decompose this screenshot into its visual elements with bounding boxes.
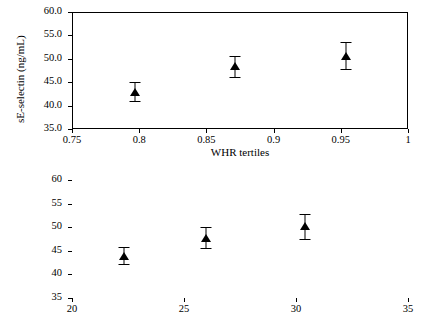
x-tick-mark [341,129,342,133]
data-point-marker [201,234,211,242]
error-bar-cap [118,264,129,265]
error-bar-cap [201,248,212,249]
x-tick-mark [206,129,207,133]
x-tick-label: 20 [52,303,92,314]
y-tick-label: 55 [26,197,62,208]
data-point-marker [119,252,129,260]
data-point-marker [341,52,351,60]
x-tick-label: 0.85 [186,134,226,145]
y-tick-mark [68,12,72,13]
x-tick-label: 0.9 [254,134,294,145]
y-tick-mark [68,204,72,205]
y-tick-label: 55.0 [26,28,62,39]
y-axis-label-whr: sE-selectin (ng/mL) [14,35,26,123]
y-tick-mark [68,82,72,83]
x-tick-mark [296,298,297,302]
y-tick-label: 45.0 [26,75,62,86]
x-tick-label: 1 [388,134,428,145]
y-tick-label: 60 [26,173,62,184]
y-tick-label: 40.0 [26,99,62,110]
y-tick-mark [68,251,72,252]
error-bar-cap [118,247,129,248]
x-tick-label: 30 [276,303,316,314]
x-tick-mark [408,298,409,302]
x-tick-mark [72,129,73,133]
error-bar-cap [341,42,352,43]
error-bar-cap [229,77,240,78]
y-tick-mark [68,274,72,275]
x-tick-label: 35 [388,303,428,314]
x-tick-label: 0.75 [52,134,92,145]
error-bar-cap [341,69,352,70]
x-axis-label-whr: WHR tertiles [72,146,408,158]
y-tick-label: 45 [26,244,62,255]
y-tick-label: 50 [26,220,62,231]
y-tick-mark [68,35,72,36]
plot-area-whr [72,12,408,129]
x-tick-label: 0.95 [321,134,361,145]
y-tick-mark [68,227,72,228]
x-tick-label: 0.8 [119,134,159,145]
y-tick-label: 35.0 [26,122,62,133]
y-tick-mark [68,106,72,107]
data-point-marker [230,62,240,70]
y-tick-mark [68,59,72,60]
x-tick-mark [274,129,275,133]
error-bar-cap [130,82,141,83]
error-bar-cap [201,227,212,228]
y-tick-mark [68,180,72,181]
error-bar-cap [130,101,141,102]
x-tick-mark [184,298,185,302]
figure-container: sE-selectin (ng/mL) WHR tertiles sE-sele… [0,0,432,333]
data-point-marker [130,88,140,96]
x-tick-mark [139,129,140,133]
x-tick-mark [408,129,409,133]
y-tick-label: 50.0 [26,52,62,63]
error-bar-cap [229,56,240,57]
data-point-marker [300,222,310,230]
y-tick-label: 35 [26,291,62,302]
x-tick-mark [72,298,73,302]
y-tick-label: 40 [26,267,62,278]
error-bar-cap [299,214,310,215]
x-tick-label: 25 [164,303,204,314]
error-bar-cap [299,239,310,240]
y-tick-label: 60.0 [26,5,62,16]
